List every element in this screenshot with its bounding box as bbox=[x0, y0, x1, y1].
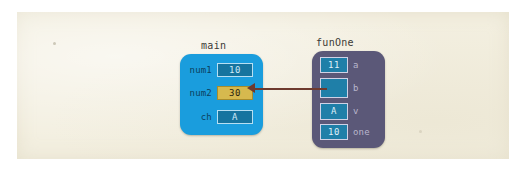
funone-var-label-a: a bbox=[353, 60, 359, 70]
main-stack-frame: num1 10 num2 30 ch A bbox=[180, 54, 263, 135]
funone-stack-frame: 11 a b A v 10 one bbox=[312, 51, 385, 148]
main-row-num2: num2 30 bbox=[186, 85, 253, 100]
paper-speck bbox=[53, 42, 56, 45]
funone-value-one: 10 bbox=[320, 124, 348, 140]
paper-background: main num1 10 num2 30 ch A funOne 11 a bbox=[17, 12, 509, 159]
main-value-ch: A bbox=[217, 110, 253, 124]
main-var-label-num2: num2 bbox=[186, 88, 212, 98]
funone-row-v: A v bbox=[320, 102, 359, 120]
funone-frame-title: funOne bbox=[316, 37, 354, 48]
funone-var-label-one: one bbox=[353, 127, 370, 137]
main-row-ch: ch A bbox=[186, 109, 253, 124]
main-frame-title: main bbox=[201, 40, 226, 51]
reference-connector-line bbox=[253, 88, 327, 90]
main-var-label-ch: ch bbox=[186, 112, 212, 122]
funone-row-a: 11 a bbox=[320, 57, 359, 72]
paper-speck bbox=[419, 130, 422, 133]
main-value-num1: 10 bbox=[217, 63, 253, 77]
funone-value-v: A bbox=[320, 103, 348, 120]
funone-var-label-b: b bbox=[353, 83, 359, 93]
reference-arrow-head-icon bbox=[247, 83, 255, 93]
main-row-num1: num1 10 bbox=[186, 62, 253, 77]
diagram-canvas: main num1 10 num2 30 ch A funOne 11 a bbox=[0, 0, 522, 170]
main-var-label-num1: num1 bbox=[186, 65, 212, 75]
funone-value-a: 11 bbox=[320, 57, 348, 73]
funone-row-one: 10 one bbox=[320, 124, 370, 139]
funone-var-label-v: v bbox=[353, 106, 359, 116]
